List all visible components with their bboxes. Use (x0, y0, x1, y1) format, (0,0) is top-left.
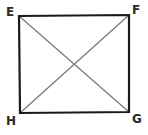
vertex-label-h: H (6, 114, 16, 128)
vertex-label-g: G (132, 112, 142, 126)
square-diagram: E F H G (0, 0, 148, 135)
vertex-label-f: F (132, 3, 140, 17)
vertex-label-e: E (6, 5, 14, 19)
